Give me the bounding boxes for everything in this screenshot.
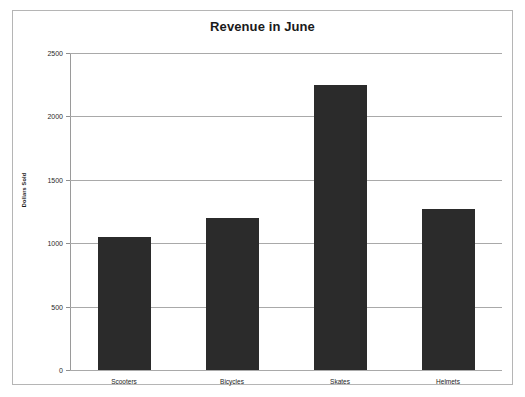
y-tick-label: 0 <box>59 367 63 374</box>
y-axis-line <box>70 53 71 371</box>
x-category-label-helmets: Helmets <box>394 378 502 385</box>
y-tick-mark <box>66 370 70 371</box>
y-tick-label: 2500 <box>47 50 63 57</box>
bar-bicycles[interactable] <box>206 218 259 370</box>
bar-skates[interactable] <box>314 85 367 370</box>
plot-area: 05001000150020002500 ScootersBicyclesSka… <box>70 53 502 370</box>
y-tick-mark <box>66 243 70 244</box>
y-tick-label: 1000 <box>47 240 63 247</box>
chart-screenshot: Revenue in June Dollars Sold 05001000150… <box>0 0 525 397</box>
y-axis-title: Dollars Sold <box>21 155 27 225</box>
y-tick-mark <box>66 307 70 308</box>
gridline <box>70 116 502 117</box>
y-tick-label: 2000 <box>47 113 63 120</box>
x-category-label-bicycles: Bicycles <box>178 378 286 385</box>
gridline <box>70 53 502 54</box>
x-category-label-skates: Skates <box>286 378 394 385</box>
y-tick-mark <box>66 116 70 117</box>
y-tick-mark <box>66 180 70 181</box>
x-category-label-scooters: Scooters <box>70 378 178 385</box>
gridline <box>70 180 502 181</box>
y-tick-mark <box>66 53 70 54</box>
gridline <box>70 370 502 371</box>
y-tick-label: 1500 <box>47 176 63 183</box>
chart-frame: Revenue in June Dollars Sold 05001000150… <box>12 10 513 385</box>
bar-helmets[interactable] <box>422 209 475 370</box>
y-tick-label: 500 <box>51 303 63 310</box>
bar-scooters[interactable] <box>98 237 151 370</box>
chart-title: Revenue in June <box>13 19 512 34</box>
